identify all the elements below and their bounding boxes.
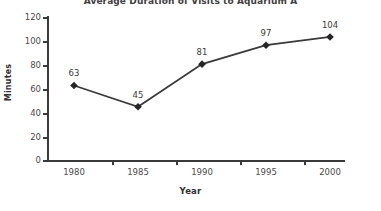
data-point-label-1985: 45 (123, 90, 153, 100)
data-point-label-1980: 63 (59, 68, 89, 78)
data-point-label-1995: 97 (251, 28, 281, 38)
data-point-markers (70, 33, 334, 110)
line-chart: Average Duration of Visits to Aquarium A… (0, 0, 381, 211)
data-point-marker-1995 (262, 41, 270, 49)
data-point-marker-2000 (326, 33, 334, 41)
data-point-label-1990: 81 (187, 47, 217, 57)
data-point-marker-1980 (70, 82, 78, 90)
data-point-label-2000: 104 (315, 20, 345, 30)
data-series-line (0, 0, 381, 211)
